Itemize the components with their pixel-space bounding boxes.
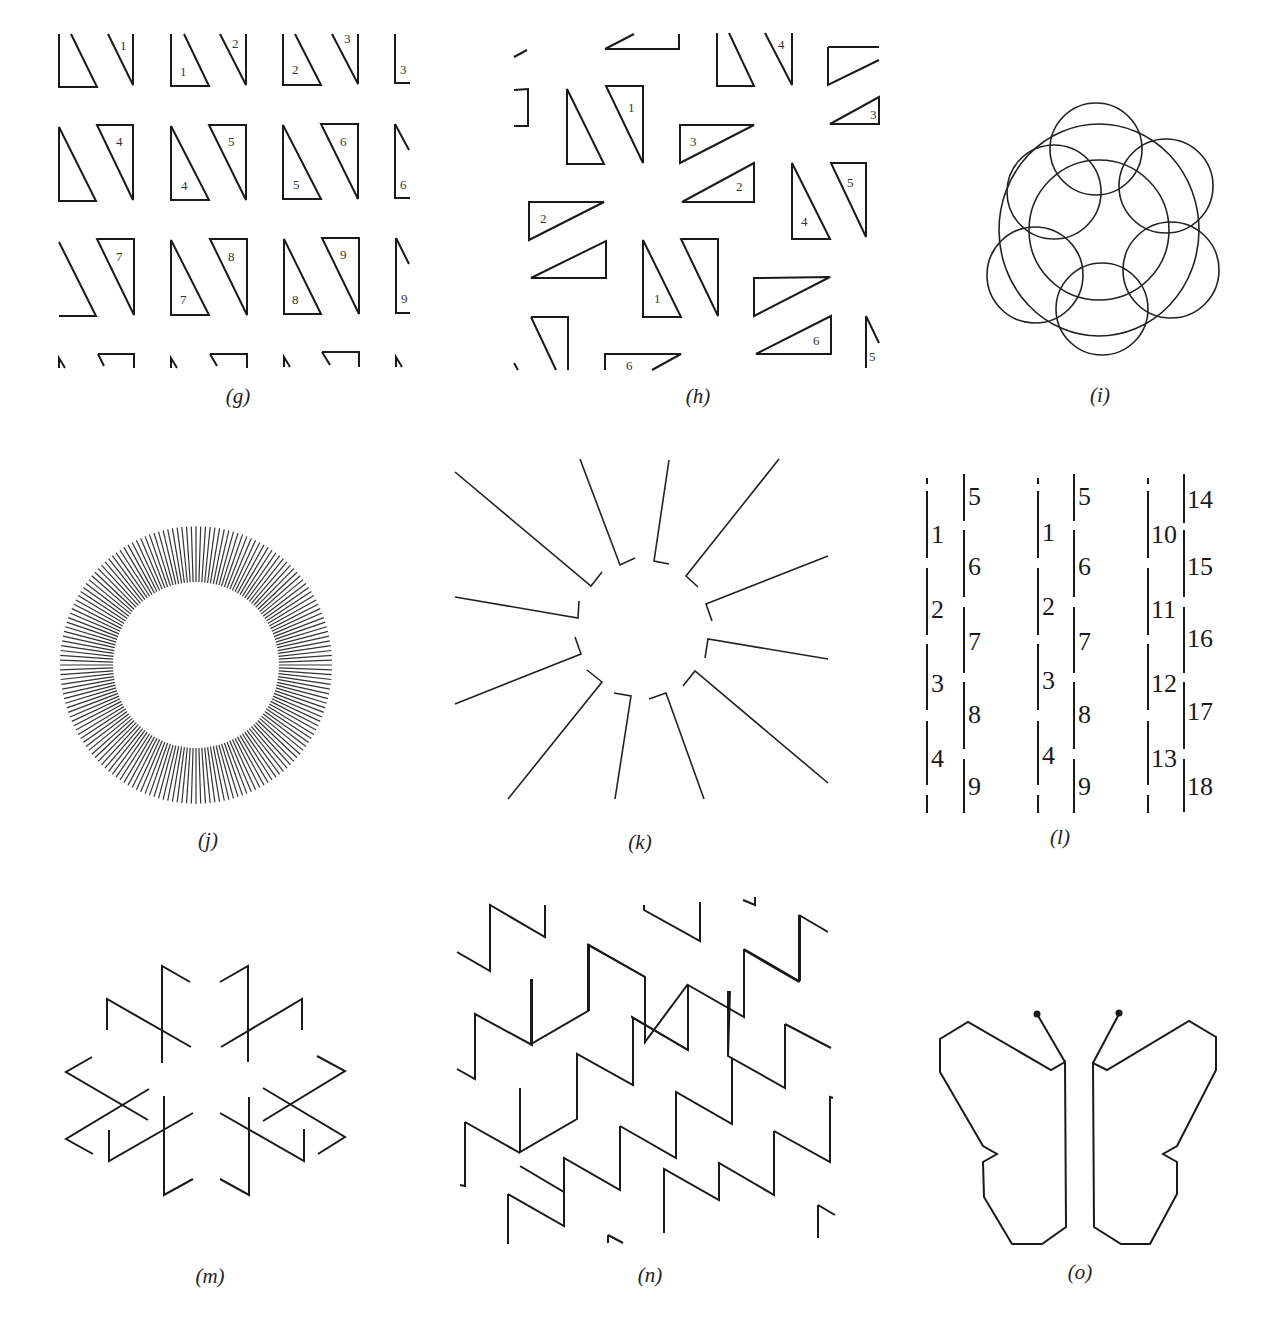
caption-l: (l) <box>1000 825 1120 850</box>
l-label: 1 <box>931 520 944 549</box>
caption-h: (h) <box>638 384 758 409</box>
butterfly-o <box>920 950 1230 1310</box>
radial-annulus-j <box>50 510 350 860</box>
panel-h: 1 1 2 2 3 3 4 4 5 5 6 6 (h) <box>500 20 900 410</box>
l-label: 8 <box>968 700 981 729</box>
antenna-tip-right <box>1116 1010 1123 1017</box>
g-label: 8 <box>292 292 299 307</box>
l-label: 5 <box>968 482 981 511</box>
h-label: 3 <box>870 107 877 122</box>
circle-rosette-i <box>960 80 1230 410</box>
g-label: 1 <box>180 64 187 79</box>
g-label: 3 <box>344 31 351 46</box>
g-label: 4 <box>116 134 123 149</box>
g-label: 8 <box>228 249 235 264</box>
l-label: 9 <box>968 772 981 801</box>
panel-i: (i) <box>960 80 1230 410</box>
l-label: 17 <box>1187 697 1213 726</box>
caption-g: (g) <box>178 384 298 409</box>
l-label: 15 <box>1187 552 1213 581</box>
h-label: 3 <box>690 134 697 149</box>
l-label: 13 <box>1151 744 1177 773</box>
panel-m: (m) <box>50 950 370 1310</box>
h-label: 4 <box>801 214 808 229</box>
l-label: 4 <box>1042 741 1055 770</box>
l-label: 14 <box>1187 485 1213 514</box>
sawtooth-rows-n <box>440 890 850 1310</box>
h-label: 2 <box>736 179 743 194</box>
l-label: 2 <box>1042 592 1055 621</box>
panel-o: (o) <box>920 950 1230 1310</box>
g-label: 5 <box>293 177 300 192</box>
g-label: 2 <box>232 36 239 51</box>
radial-hooks-k <box>440 450 840 850</box>
h-label: 1 <box>654 291 661 306</box>
l-label: 1 <box>1042 518 1055 547</box>
l-label: 3 <box>931 669 944 698</box>
panel-k: (k) <box>440 450 840 850</box>
l-label: 6 <box>968 552 981 581</box>
g-label: 7 <box>116 249 123 264</box>
g-label: 5 <box>228 134 235 149</box>
panel-l: 1 2 3 4 5 6 7 8 9 1 2 3 4 5 6 7 8 9 10 1… <box>900 460 1230 860</box>
g-label: 7 <box>180 292 187 307</box>
g-label: 2 <box>292 62 299 77</box>
h-label: 2 <box>540 211 547 226</box>
h-label: 6 <box>813 333 820 348</box>
caption-n: (n) <box>590 1263 710 1288</box>
l-label: 10 <box>1151 520 1177 549</box>
caption-m: (m) <box>150 1264 270 1289</box>
caption-o: (o) <box>1020 1260 1140 1285</box>
l-label: 6 <box>1078 552 1091 581</box>
l-label: 5 <box>1078 482 1091 511</box>
l-label: 12 <box>1151 669 1177 698</box>
l-label: 7 <box>968 627 981 656</box>
g-label: 1 <box>120 38 127 53</box>
panel-n: (n) <box>440 890 850 1310</box>
antenna-tip-left <box>1034 1011 1041 1018</box>
h-label: 6 <box>626 358 633 373</box>
h-label: 5 <box>869 349 876 364</box>
triangle-grid-g: 1 2 3 1 2 3 4 5 6 4 5 6 7 8 9 7 8 9 <box>40 20 440 410</box>
l-label: 9 <box>1078 772 1091 801</box>
g-label: 3 <box>400 62 407 77</box>
numbered-segments-l: 1 2 3 4 5 6 7 8 9 1 2 3 4 5 6 7 8 9 10 1… <box>900 460 1230 860</box>
caption-k: (k) <box>580 830 700 855</box>
g-label: 4 <box>181 178 188 193</box>
g-label: 9 <box>401 291 408 306</box>
caption-j: (j) <box>148 828 268 853</box>
h-label: 4 <box>778 37 785 52</box>
l-label: 18 <box>1187 772 1213 801</box>
g-label: 6 <box>400 177 407 192</box>
l-label: 3 <box>1042 666 1055 695</box>
l-label: 16 <box>1187 624 1213 653</box>
l-label: 8 <box>1078 700 1091 729</box>
panel-j: (j) <box>50 510 350 860</box>
l-label: 2 <box>931 595 944 624</box>
g-label: 9 <box>340 247 347 262</box>
h-label: 1 <box>628 100 635 115</box>
rotated-triangles-h: 1 1 2 2 3 3 4 4 5 5 6 6 <box>500 20 900 410</box>
l-label: 4 <box>931 744 944 773</box>
g-label: 6 <box>340 134 347 149</box>
h-label: 5 <box>847 175 854 190</box>
l-label: 11 <box>1151 595 1176 624</box>
star-zigzag-m <box>50 950 370 1310</box>
panel-g: 1 2 3 1 2 3 4 5 6 4 5 6 7 8 9 7 8 9 (g) <box>40 20 440 410</box>
l-label: 7 <box>1078 627 1091 656</box>
caption-i: (i) <box>1040 383 1160 408</box>
